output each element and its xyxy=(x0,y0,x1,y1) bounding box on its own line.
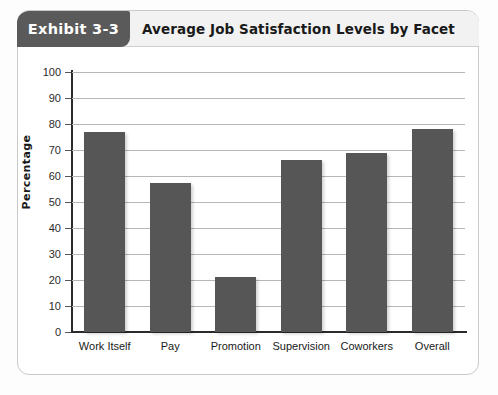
y-tick-label: 20 xyxy=(49,274,61,286)
exhibit-title: Average Job Satisfaction Levels by Facet xyxy=(142,11,455,47)
y-tick-mark xyxy=(65,254,71,255)
x-axis-category-label: Pay xyxy=(161,340,180,352)
y-tick-label: 80 xyxy=(49,118,61,130)
bar xyxy=(215,277,256,332)
y-tick-label: 30 xyxy=(49,248,61,260)
y-tick-mark xyxy=(65,72,71,73)
y-tick-label: 10 xyxy=(49,300,61,312)
y-tick-label: 60 xyxy=(49,170,61,182)
x-axis-category-label: Supervision xyxy=(273,340,330,352)
y-tick-mark xyxy=(65,306,71,307)
y-tick-mark xyxy=(65,228,71,229)
x-axis-category-label: Coworkers xyxy=(340,340,393,352)
gridline xyxy=(72,124,465,125)
bar xyxy=(281,160,322,332)
screenshot-root: Exhibit 3-3 Average Job Satisfaction Lev… xyxy=(0,0,498,395)
gridline xyxy=(72,254,465,255)
x-axis-category-label: Work Itself xyxy=(79,340,131,352)
y-tick-mark xyxy=(65,202,71,203)
bar xyxy=(84,132,125,332)
gridline xyxy=(72,306,465,307)
exhibit-number-tab: Exhibit 3-3 xyxy=(17,11,130,47)
gridline xyxy=(72,72,465,73)
gridline xyxy=(72,150,465,151)
exhibit-number-label: Exhibit 3-3 xyxy=(28,21,119,37)
y-tick-label: 0 xyxy=(55,326,61,338)
x-axis-category-label: Overall xyxy=(415,340,450,352)
y-tick-mark xyxy=(65,124,71,125)
gridline xyxy=(72,98,465,99)
plot-area: 1009080706050403020100 xyxy=(72,72,465,332)
y-tick-label: 50 xyxy=(49,196,61,208)
y-tick-mark xyxy=(65,332,71,333)
bar xyxy=(346,153,387,332)
gridline xyxy=(72,228,465,229)
bar xyxy=(150,183,191,333)
bar xyxy=(412,129,453,332)
y-tick-label: 70 xyxy=(49,144,61,156)
x-axis-category-label: Promotion xyxy=(211,340,261,352)
y-tick-label: 100 xyxy=(43,66,61,78)
y-tick-label: 40 xyxy=(49,222,61,234)
y-tick-mark xyxy=(65,150,71,151)
gridline xyxy=(72,202,465,203)
gridline xyxy=(72,280,465,281)
y-tick-mark xyxy=(65,98,71,99)
y-tick-label: 90 xyxy=(49,92,61,104)
y-axis-title: Percentage xyxy=(20,135,33,210)
y-tick-mark xyxy=(65,280,71,281)
y-tick-mark xyxy=(65,176,71,177)
gridline xyxy=(72,176,465,177)
